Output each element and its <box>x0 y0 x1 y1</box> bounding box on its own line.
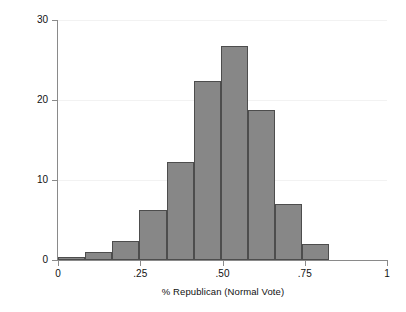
y-tick-mark <box>52 260 58 261</box>
y-tick-label: 10 <box>24 174 48 185</box>
x-tick-label: .50 <box>203 268 243 279</box>
x-tick-label: 1 <box>367 268 406 279</box>
caption-sliver <box>0 305 406 312</box>
histogram-bar <box>275 204 302 260</box>
y-tick-label: 20 <box>24 94 48 105</box>
y-tick-mark <box>52 180 58 181</box>
histogram-figure: Percent of Cases 0102030 0.25.50.751 % R… <box>0 0 406 312</box>
x-axis-label: % Republican (Normal Vote) <box>58 286 388 297</box>
plot-area <box>58 20 387 260</box>
x-tick-mark <box>58 261 59 266</box>
y-tick-mark <box>52 100 58 101</box>
y-tick-label: 0 <box>24 254 48 265</box>
histogram-bar <box>221 46 248 260</box>
x-tick-label: .75 <box>285 268 325 279</box>
x-tick-mark <box>305 261 306 266</box>
histogram-bar <box>112 241 139 260</box>
x-tick-mark <box>223 261 224 266</box>
histogram-bar <box>248 110 275 260</box>
histogram-bar <box>194 81 221 260</box>
histogram-bar <box>302 244 329 260</box>
x-tick-mark <box>387 261 388 266</box>
histogram-bar <box>167 162 194 260</box>
y-tick-mark <box>52 20 58 21</box>
y-tick-label-group: 0102030 <box>20 0 48 312</box>
x-tick-label: .25 <box>120 268 160 279</box>
x-tick-label: 0 <box>38 268 78 279</box>
histogram-bar <box>85 252 112 260</box>
histogram-bar <box>139 210 166 260</box>
bar-group <box>58 20 387 260</box>
x-tick-mark <box>140 261 141 266</box>
y-tick-label: 30 <box>24 14 48 25</box>
